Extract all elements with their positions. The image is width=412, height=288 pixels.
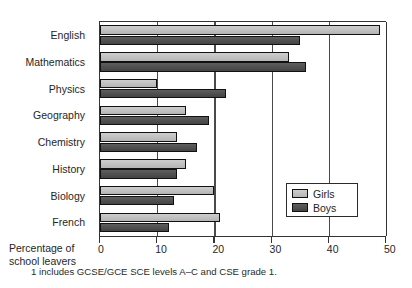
x-axis-tick [156,237,157,243]
category-label: Mathematics [25,49,85,76]
bar-girls [100,79,157,88]
legend-item-girls: Girls [292,187,357,200]
bar-girls [100,186,214,195]
bar-boys [100,89,226,98]
bar-boys [100,196,174,205]
category-axis-labels: EnglishMathematicsPhysicsGeographyChemis… [0,22,94,236]
category-label: Physics [49,76,85,103]
bar-group [100,129,386,156]
x-axis-tick-label: 30 [270,243,282,255]
bar-girls [100,52,289,61]
legend-label-girls: Girls [313,188,335,200]
bar-group [100,76,386,103]
category-label: Geography [33,102,85,129]
bar-group [100,156,386,183]
bar-girls [100,25,380,34]
bar-girls [100,213,220,222]
x-axis-tick-label: 10 [155,243,167,255]
x-axis-tick-label: 50 [384,243,396,255]
x-axis-title: Percentage ofschool leavers [9,242,97,267]
legend-swatch-boys [292,203,308,211]
bar-chart-figure: EnglishMathematicsPhysicsGeographyChemis… [0,0,412,288]
bar-group [100,22,386,49]
bar-girls [100,106,186,115]
x-axis-tick [213,237,214,243]
bar-group [100,49,386,76]
category-label: Biology [51,183,85,210]
legend-swatch-girls [292,189,308,197]
x-axis-tick-label: 40 [327,243,339,255]
legend-label-boys: Boys [313,202,336,214]
bar-boys [100,143,197,152]
x-axis-tick [99,237,100,243]
legend-item-boys: Boys [292,201,357,214]
bar-boys [100,62,306,71]
x-axis-title-line: Percentage of [9,242,97,255]
bar-boys [100,36,300,45]
x-axis-tick [271,237,272,243]
category-label: English [51,22,85,49]
bar-boys [100,116,209,125]
x-axis-tick-label: 0 [98,243,104,255]
x-axis-tick [385,237,386,243]
bar-boys [100,169,177,178]
x-axis-tick [328,237,329,243]
category-label: Chemistry [38,129,85,156]
category-label: History [52,156,85,183]
chart-legend: Girls Boys [286,183,358,217]
category-label: French [52,209,85,236]
bar-girls [100,132,177,141]
bar-boys [100,223,169,232]
bar-group [100,102,386,129]
bar-girls [100,159,186,168]
chart-footnote: 1 includes GCSE/GCE SCE levels A–C and C… [31,266,277,277]
x-axis-tick-label: 20 [212,243,224,255]
